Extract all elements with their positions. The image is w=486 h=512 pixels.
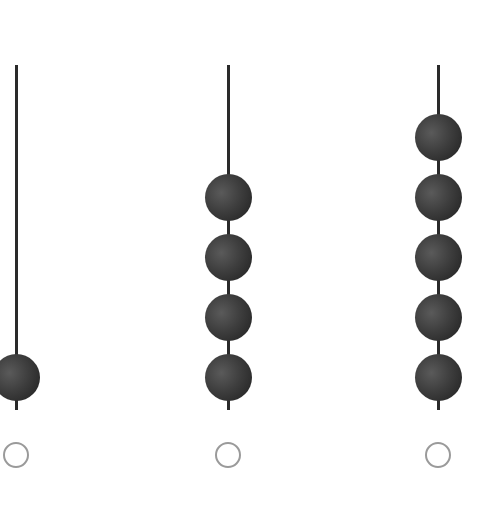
abacus-bead [415, 354, 462, 401]
abacus-bead [415, 174, 462, 221]
abacus-bead [205, 174, 252, 221]
abacus-bead [205, 234, 252, 281]
answer-radio-1[interactable] [3, 442, 29, 468]
abacus-bead [205, 354, 252, 401]
abacus-bead [205, 294, 252, 341]
answer-radio-3[interactable] [425, 442, 451, 468]
abacus-bead [415, 114, 462, 161]
abacus-bead [415, 294, 462, 341]
abacus-bead [0, 354, 40, 401]
answer-radio-2[interactable] [215, 442, 241, 468]
abacus-bead [415, 234, 462, 281]
